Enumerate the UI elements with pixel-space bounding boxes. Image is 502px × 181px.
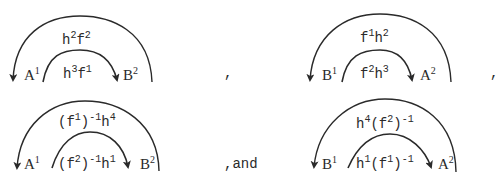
- node-a2: A2: [420, 68, 436, 82]
- outer-edge-label: h4(f2)-1: [356, 117, 414, 131]
- outer-edge-label: h2f2: [62, 33, 91, 47]
- node-a1: A1: [24, 68, 40, 82]
- inner-edge-label: h1(f1)-1: [356, 157, 414, 171]
- node-a2: A2: [438, 157, 454, 171]
- separator-comma: ,: [490, 66, 498, 80]
- node-b1: B1: [322, 157, 337, 171]
- node-b2: B2: [123, 68, 138, 82]
- node-b1: B1: [322, 68, 337, 82]
- outer-edge-label: f1h2: [360, 31, 389, 45]
- inner-edge-label: (f2)-1h1: [58, 157, 116, 171]
- inner-edge-label: h3f1: [63, 67, 92, 81]
- outer-edge-label: (f1)-1h4: [58, 115, 116, 129]
- node-a1: A1: [24, 157, 40, 171]
- inner-edge-label: f2h3: [360, 67, 389, 81]
- separator-and: ,and: [224, 157, 258, 171]
- separator-comma: ,: [224, 66, 232, 80]
- node-b2: B2: [140, 157, 155, 171]
